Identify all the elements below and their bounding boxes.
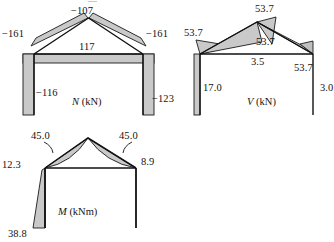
shear-left-column-label: 17.0 <box>203 83 222 94</box>
axial-right-rafter-band <box>89 13 146 46</box>
moment-caption-unit: (kNm) <box>69 206 97 217</box>
shear-inner-label: 53.7 <box>256 37 275 48</box>
axial-left-column-label: −116 <box>36 88 58 99</box>
shear-right-column-label: 3.0 <box>320 83 333 94</box>
moment-left-base-label: 38.8 <box>8 229 27 240</box>
axial-right-column-label: −123 <box>152 94 174 105</box>
moment-left-eaves-label: 12.3 <box>2 160 21 171</box>
moment-caption-symbol: M <box>58 206 67 217</box>
axial-apex-label: −107 <box>71 6 93 17</box>
shear-tie-label: 3.5 <box>251 57 264 68</box>
moment-right-leader-line <box>123 142 132 153</box>
shear-caption-unit: (kN) <box>256 96 276 107</box>
axial-right-eaves-label: −161 <box>146 29 168 40</box>
moment-diagram-caption: M (kNm) <box>58 206 97 217</box>
axial-right-column-band <box>143 54 154 115</box>
axial-tie-band <box>23 54 154 63</box>
axial-left-eaves-label: −161 <box>2 29 24 40</box>
moment-left-rafter-label: 45.0 <box>31 131 50 142</box>
moment-right-rafter-label: 45.0 <box>119 131 138 142</box>
axial-caption-unit: (kN) <box>82 96 102 107</box>
axial-left-column-band <box>23 54 34 115</box>
axial-tie-label: 117 <box>79 42 95 53</box>
moment-left-leader-line <box>44 142 53 153</box>
shear-left-eaves-label: 53.7 <box>184 28 203 39</box>
shear-left-column-band <box>194 54 200 115</box>
axial-diagram-caption: N (kN) <box>72 96 101 107</box>
shear-right-eaves-label: 53.7 <box>294 63 313 74</box>
moment-left-column-wedge <box>33 168 45 228</box>
shear-apex-label: 53.7 <box>255 4 274 15</box>
moment-right-eaves-label: 8.9 <box>141 157 154 168</box>
axial-caption-symbol: N <box>72 96 79 107</box>
force-diagram-figure: −107 −161 −161 117 −116 −123 N (kN) 53.7… <box>0 0 334 242</box>
shear-diagram-caption: V (kN) <box>247 96 276 107</box>
